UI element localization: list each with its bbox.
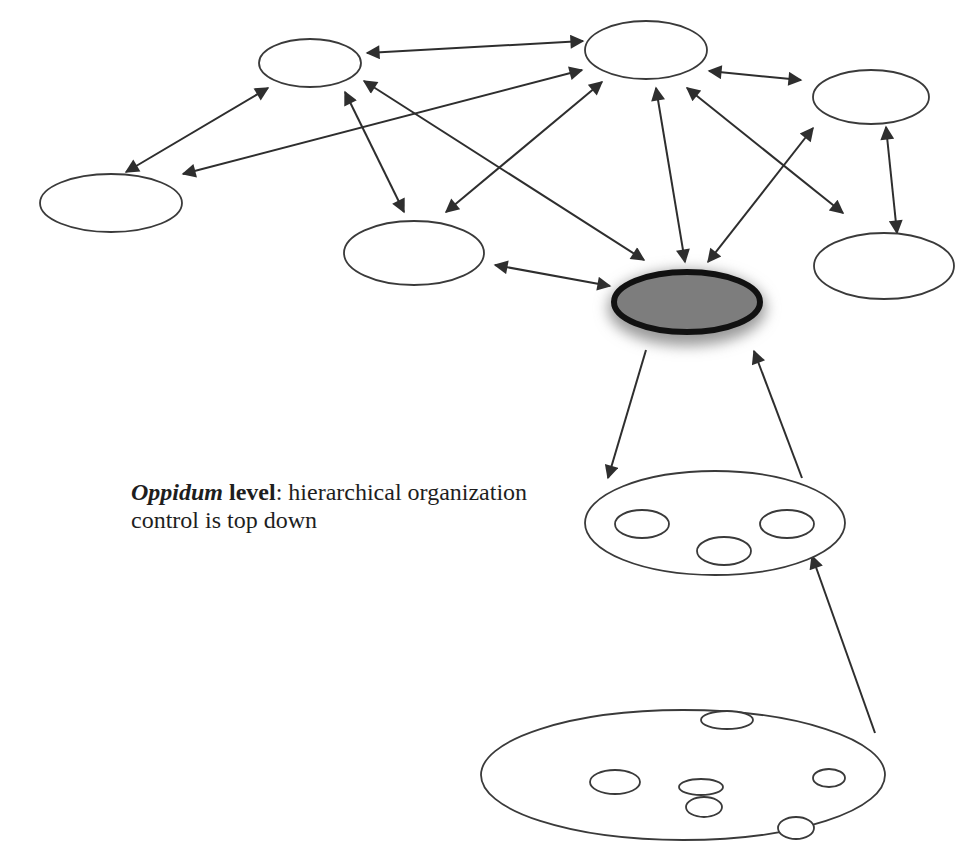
- core-node: [614, 272, 760, 332]
- bidirectional-arrow: [183, 70, 582, 174]
- network-diagram: [0, 0, 979, 858]
- caption: Oppidum level: hierarchical organization…: [131, 478, 527, 534]
- bidirectional-arrow: [709, 71, 801, 80]
- bidirectional-arrow: [656, 88, 685, 262]
- sub-unit-node: [813, 769, 845, 787]
- sub-unit-node: [590, 770, 640, 794]
- caption-term: Oppidum: [131, 479, 223, 505]
- bidirectional-arrow: [495, 265, 610, 286]
- caption-line-2: control is top down: [131, 506, 527, 534]
- sub-unit-node: [615, 510, 669, 538]
- bidirectional-arrow: [126, 88, 268, 172]
- edges-layer: [126, 41, 897, 733]
- sub-unit-node: [679, 779, 723, 795]
- network-node: [40, 174, 182, 232]
- directional-arrow: [812, 556, 875, 733]
- bidirectional-arrow: [367, 41, 583, 53]
- sub-unit-node: [686, 797, 722, 817]
- caption-keyword: level: [223, 479, 276, 505]
- network-node: [814, 233, 954, 299]
- bidirectional-arrow: [446, 82, 602, 212]
- sub-unit-node: [778, 817, 814, 839]
- network-node: [259, 39, 361, 87]
- network-node: [585, 21, 707, 79]
- network-node: [813, 70, 929, 124]
- network-node: [344, 221, 484, 285]
- sub-unit-node: [701, 711, 753, 729]
- sub-unit-node: [697, 537, 751, 565]
- bidirectional-arrow: [345, 92, 404, 212]
- directional-arrow: [608, 350, 646, 478]
- directional-arrow: [754, 351, 802, 478]
- bidirectional-arrow: [886, 127, 897, 233]
- nodes-layer: [40, 21, 954, 346]
- caption-line-1-rest: : hierarchical organization: [276, 479, 527, 505]
- sub-unit-node: [760, 510, 814, 538]
- groups-layer: [481, 471, 885, 840]
- caption-line-1: Oppidum level: hierarchical organization: [131, 478, 527, 506]
